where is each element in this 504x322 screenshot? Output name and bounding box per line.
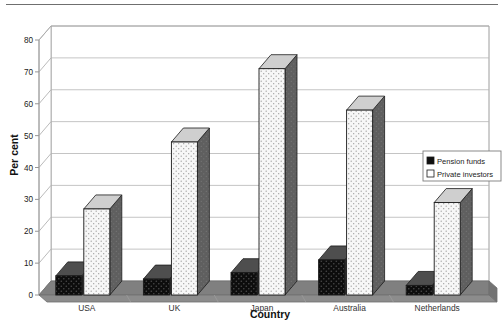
- y-tick-label: 60: [24, 100, 34, 109]
- legend[interactable]: Pension fundsPrivate investors: [423, 151, 501, 181]
- y-tick-label: 80: [24, 36, 34, 45]
- y-tick-label: 20: [24, 227, 34, 236]
- bar-light: [259, 55, 297, 295]
- y-axis-title: Per cent: [8, 134, 20, 176]
- y-tick-label: 0: [28, 291, 33, 300]
- legend-swatch-private-investors: [427, 170, 434, 177]
- bar-chart-canvas: 01020304050607080 USAUKJapanAustraliaNet…: [0, 0, 504, 322]
- x-category-label: UK: [169, 303, 181, 313]
- bar-light: [84, 195, 122, 295]
- y-tick-label: 30: [24, 195, 34, 204]
- bar-light: [171, 128, 209, 295]
- legend-label: Private investors: [437, 170, 493, 179]
- bar-light: [434, 189, 472, 295]
- chart-figure: 01020304050607080 USAUKJapanAustraliaNet…: [0, 0, 504, 322]
- x-category-label: Australia: [333, 303, 366, 313]
- x-axis-title: Country: [250, 308, 290, 320]
- y-tick-label: 10: [24, 259, 34, 268]
- legend-swatch-pension-funds: [427, 157, 434, 164]
- x-category-label: Netherlands: [415, 303, 460, 313]
- bar-light: [347, 96, 385, 295]
- y-tick-label: 40: [24, 164, 34, 173]
- y-tick-label: 70: [24, 68, 34, 77]
- x-category-label: USA: [78, 303, 96, 313]
- y-tick-label: 50: [24, 132, 34, 141]
- legend-label: Pension funds: [437, 157, 485, 166]
